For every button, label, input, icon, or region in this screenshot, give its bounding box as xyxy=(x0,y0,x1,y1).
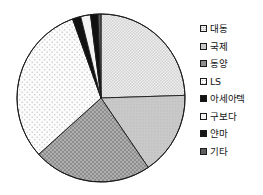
legend-label: LS xyxy=(210,73,221,91)
legend-label: 구보다 xyxy=(210,108,236,126)
legend-item-kukje[interactable]: 국제 xyxy=(200,38,262,56)
legend-swatch-icon xyxy=(200,148,207,155)
legend-swatch-icon xyxy=(200,60,207,67)
legend-swatch-icon xyxy=(200,25,207,32)
pie-slice[interactable] xyxy=(101,14,185,98)
legend-item-daedong[interactable]: 대동 xyxy=(200,20,262,38)
legend-item-ls[interactable]: LS xyxy=(200,73,262,91)
pie-chart-svg xyxy=(16,11,186,185)
legend-item-kubota[interactable]: 구보다 xyxy=(200,108,262,126)
legend-swatch-icon xyxy=(200,113,207,120)
chart-legend: 대동 국제 동양 LS 아세아텍 구보다 얀마 기타 xyxy=(200,20,262,160)
pie-chart-plot-area xyxy=(16,11,186,185)
pie-chart-figure: 대동 국제 동양 LS 아세아텍 구보다 얀마 기타 xyxy=(0,0,263,195)
legend-label: 대동 xyxy=(210,20,228,38)
legend-item-asiatech[interactable]: 아세아텍 xyxy=(200,90,262,108)
legend-swatch-icon xyxy=(200,78,207,85)
legend-label: 동양 xyxy=(210,55,228,73)
legend-item-etc[interactable]: 기타 xyxy=(200,143,262,161)
legend-swatch-icon xyxy=(200,95,207,102)
legend-item-yanmar[interactable]: 얀마 xyxy=(200,125,262,143)
legend-label: 기타 xyxy=(210,143,228,161)
pie-slice-group xyxy=(17,14,185,182)
legend-label: 국제 xyxy=(210,38,228,56)
legend-label: 아세아텍 xyxy=(210,90,245,108)
legend-swatch-icon xyxy=(200,43,207,50)
legend-item-dongyang[interactable]: 동양 xyxy=(200,55,262,73)
legend-swatch-icon xyxy=(200,130,207,137)
legend-label: 얀마 xyxy=(210,125,228,143)
